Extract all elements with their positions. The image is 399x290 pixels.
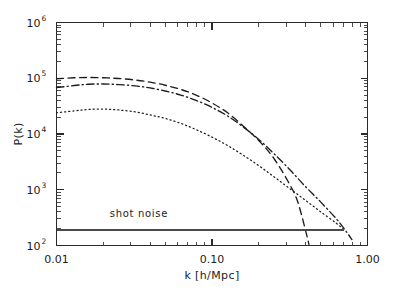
y-tick-label: 103 xyxy=(27,181,47,197)
power-spectrum-figure: 0.010.101.00102103104105106 k [h/Mpc] P(… xyxy=(0,0,399,290)
x-tick-label: 0.01 xyxy=(44,253,69,266)
svg-text:10: 10 xyxy=(27,17,41,30)
svg-text:4: 4 xyxy=(42,125,47,134)
data-curves xyxy=(57,78,352,245)
svg-text:2: 2 xyxy=(42,237,47,246)
y-tick-label: 104 xyxy=(27,125,47,141)
x-axis-title: k [h/Mpc] xyxy=(184,269,239,282)
svg-text:10: 10 xyxy=(27,128,41,141)
svg-text:10: 10 xyxy=(27,72,41,85)
svg-text:5: 5 xyxy=(42,69,47,78)
dashed-curve xyxy=(57,78,309,245)
x-tick-label: 0.10 xyxy=(200,253,225,266)
x-tick-label: 1.00 xyxy=(355,253,380,266)
y-tick-label: 105 xyxy=(27,69,47,85)
svg-text:10: 10 xyxy=(27,184,41,197)
plot-canvas: 0.010.101.00102103104105106 k [h/Mpc] P(… xyxy=(0,0,399,290)
y-axis-title: P(k) xyxy=(12,122,25,145)
y-tick-label: 102 xyxy=(27,237,47,253)
dash-dot-curve xyxy=(57,84,352,240)
shot-noise-annotation: shot noise xyxy=(110,208,168,219)
svg-text:6: 6 xyxy=(42,14,47,23)
svg-text:3: 3 xyxy=(42,181,47,190)
axis-tick-labels: 0.010.101.00102103104105106 xyxy=(27,14,380,266)
svg-text:10: 10 xyxy=(27,240,41,253)
y-tick-label: 106 xyxy=(27,14,47,30)
